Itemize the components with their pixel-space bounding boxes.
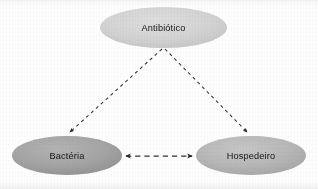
relationship-diagram: Antibiótico Bactéria Hospedeiro [0,0,318,189]
node-antibiotico[interactable]: Antibiótico [100,7,227,48]
node-bacteria[interactable]: Bactéria [12,136,122,175]
bacteria-label: Bactéria [50,151,86,161]
antibiotico-label: Antibiótico [141,23,185,33]
diagram-canvas: Antibiótico Bactéria Hospedeiro [0,0,318,189]
edge-antibiotico-to-hospedeiro [165,49,247,132]
hospedeiro-label: Hospedeiro [227,151,276,161]
node-hospedeiro[interactable]: Hospedeiro [196,136,306,175]
edge-antibiotico-to-bacteria [70,49,162,132]
